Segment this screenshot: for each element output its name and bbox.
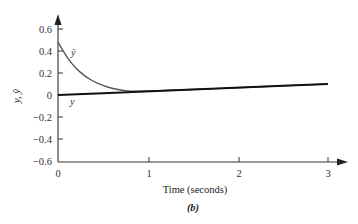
x-tick-label: 3 [325, 168, 330, 179]
y-tick-label: −0.4 [33, 134, 53, 145]
series-label-yhat: ŷ [70, 47, 76, 58]
chart: 0.6 0.4 0.2 0 −0.2 −0.4 −0.6 0 1 2 3 y, … [0, 0, 358, 224]
y-axis-title: y, ŷ [11, 89, 22, 104]
x-ticks [149, 157, 328, 162]
y-tick-label: 0.4 [39, 46, 53, 57]
x-tick-label: 2 [236, 168, 241, 179]
x-axis [58, 159, 348, 166]
y-tick-label: −0.6 [33, 156, 52, 167]
figure-caption: (b) [187, 202, 199, 214]
x-tick-labels: 0 1 2 3 [55, 168, 330, 179]
x-tick-label: 1 [146, 168, 151, 179]
y-tick-labels: 0.6 0.4 0.2 0 −0.2 −0.4 −0.6 [33, 24, 53, 167]
y-tick-label: 0.2 [39, 68, 52, 79]
series-yhat-line [58, 42, 328, 91]
series-y-line [58, 84, 328, 95]
y-tick-label: 0.6 [39, 24, 52, 35]
x-axis-title: Time (seconds) [163, 184, 228, 196]
y-axis-arrow-icon [55, 14, 62, 25]
y-axis [55, 14, 62, 162]
series-label-y: y [69, 96, 75, 107]
x-tick-label: 0 [55, 168, 60, 179]
y-tick-label: −0.2 [33, 112, 52, 123]
y-tick-label: 0 [47, 90, 52, 101]
x-axis-arrow-icon [337, 159, 348, 166]
